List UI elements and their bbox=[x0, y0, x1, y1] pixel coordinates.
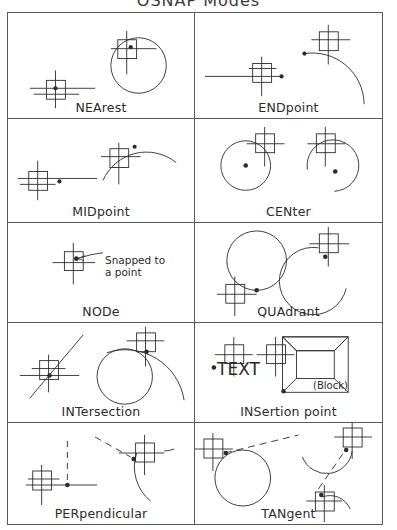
endpoint-illustration bbox=[195, 13, 382, 118]
insertion-block-caption: (Block) bbox=[313, 380, 348, 392]
node-annotation: Snapped to a point bbox=[105, 254, 165, 278]
osnap-cell-quadrant[interactable]: QUAdrant bbox=[195, 223, 382, 323]
quadrant-illustration bbox=[195, 223, 382, 322]
osnap-cell-perpendicular[interactable]: PERpendicular bbox=[8, 423, 195, 524]
osnap-cell-nearest[interactable]: NEArest bbox=[8, 13, 195, 119]
intersection-illustration bbox=[8, 323, 194, 422]
osnap-cell-center[interactable]: CENter bbox=[195, 119, 382, 223]
osnap-modes-grid: NEArest bbox=[7, 12, 383, 525]
tangent-illustration bbox=[195, 423, 382, 524]
osnap-cell-tangent[interactable]: TANgent bbox=[195, 423, 382, 524]
osnap-cell-endpoint[interactable]: ENDpoint bbox=[195, 13, 382, 119]
perpendicular-illustration bbox=[8, 423, 194, 524]
osnap-cell-intersection[interactable]: INTersection bbox=[8, 323, 195, 423]
page-title: OSNAP Modes bbox=[0, 0, 397, 10]
osnap-cell-node[interactable]: Snapped to a point NODe bbox=[8, 223, 195, 323]
nearest-illustration bbox=[8, 13, 194, 118]
osnap-cell-insertion[interactable]: TEXT (Block) INSertion point bbox=[195, 323, 382, 423]
center-illustration bbox=[195, 119, 382, 222]
osnap-cell-midpoint[interactable]: MIDpoint bbox=[8, 119, 195, 223]
insertion-text-sample: TEXT bbox=[217, 360, 260, 380]
midpoint-illustration bbox=[8, 119, 194, 222]
node-illustration bbox=[8, 223, 194, 322]
